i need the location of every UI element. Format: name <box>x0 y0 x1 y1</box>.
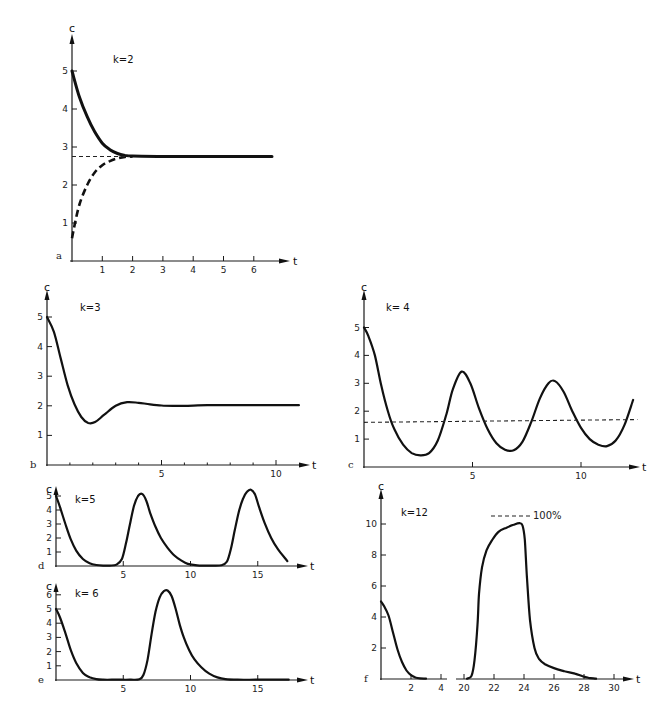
k-label: k=5 <box>75 494 96 505</box>
x-axis-label: t <box>310 560 315 573</box>
x-axis-label: t <box>312 459 317 472</box>
y-tick-label: 4 <box>354 350 360 360</box>
k-label: k=2 <box>113 54 134 65</box>
y-tick-label: 2 <box>371 643 377 653</box>
y-tick-label: 4 <box>371 612 377 622</box>
panel-letter: c <box>348 459 354 470</box>
y-tick-label: 2 <box>354 406 360 416</box>
k-label: k= 4 <box>386 302 410 313</box>
panel-letter: a <box>56 250 62 261</box>
x-tick-label: 10 <box>270 469 282 479</box>
y-tick-label: 10 <box>366 519 378 529</box>
x-tick-label: 28 <box>578 683 590 693</box>
series-equilibrium <box>364 420 637 423</box>
y-tick-label: 3 <box>354 378 360 388</box>
panel-f: 24681024202224262830 c t k=12 f 100% <box>364 480 641 693</box>
y-tick-label: 4 <box>46 505 52 515</box>
y-tick-label: 2 <box>62 180 68 190</box>
x-axis-arrow-icon <box>299 463 310 468</box>
y-axis-label: c <box>46 580 52 593</box>
x-tick-label: 2 <box>130 265 136 275</box>
y-axis-label: c <box>46 483 52 496</box>
k-label: k=3 <box>80 302 101 313</box>
panel-letter: d <box>38 560 45 571</box>
y-tick-label: 4 <box>37 342 43 352</box>
y-tick-label: 1 <box>62 218 68 228</box>
x-axis-arrow-icon <box>279 259 290 264</box>
x-tick-label: 22 <box>488 683 499 693</box>
k-label: k=12 <box>401 507 428 518</box>
y-axis-label: c <box>44 281 50 294</box>
y-tick-label: 6 <box>371 581 377 591</box>
y-tick-label: 3 <box>37 371 43 381</box>
y-tick-label: 1 <box>37 430 43 440</box>
x-tick-label: 1 <box>99 265 105 275</box>
panel-letter: e <box>38 674 44 685</box>
x-tick-label: 10 <box>185 684 197 694</box>
x-tick-label: 5 <box>159 469 165 479</box>
panel-b: 12345510 c t k=3 b <box>30 281 317 479</box>
annotation-100-percent: 100% <box>533 510 562 521</box>
k-label: k= 6 <box>75 588 99 599</box>
y-tick-label: 2 <box>37 401 43 411</box>
y-tick-label: 3 <box>46 632 52 642</box>
x-axis-label: t <box>642 461 647 474</box>
x-tick-label: 26 <box>548 683 560 693</box>
x-tick-label: 10 <box>185 570 197 580</box>
series-c-t- <box>47 317 299 423</box>
y-axis-arrow-icon <box>54 486 59 495</box>
y-tick-label: 2 <box>46 647 52 657</box>
y-tick-label: 3 <box>46 519 52 529</box>
y-tick-label: 4 <box>62 104 68 114</box>
y-tick-label: 5 <box>37 312 43 322</box>
x-tick-label: 15 <box>252 570 263 580</box>
x-tick-label: 30 <box>608 683 620 693</box>
x-axis-arrow-icon <box>623 677 634 682</box>
x-tick-label: 5 <box>221 265 227 275</box>
y-tick-label: 8 <box>371 550 377 560</box>
x-axis-arrow-icon <box>629 465 640 470</box>
y-tick-label: 4 <box>46 618 52 628</box>
series-c-t-early <box>381 602 426 679</box>
y-axis-label: c <box>361 281 367 294</box>
x-axis-arrow-icon <box>297 564 308 569</box>
figure: 12345123456 c t k=2 a 12345510 c t k=3 b… <box>0 0 671 722</box>
y-tick-label: 5 <box>354 323 360 333</box>
panel-c: 12345510 c t k= 4 c <box>348 281 647 481</box>
y-tick-label: 5 <box>62 66 68 76</box>
panel-e: 12345651015 c t k= 6 e <box>38 580 315 694</box>
series-from-c0-5 <box>72 71 272 157</box>
panel-letter: b <box>30 459 36 470</box>
y-tick-label: 1 <box>354 434 360 444</box>
x-tick-label: 2 <box>408 683 414 693</box>
x-tick-label: 4 <box>438 683 444 693</box>
x-axis-label: t <box>310 674 315 687</box>
y-tick-label: 1 <box>46 547 52 557</box>
x-tick-label: 4 <box>190 265 196 275</box>
x-tick-label: 20 <box>458 683 470 693</box>
y-tick-label: 3 <box>62 142 68 152</box>
panel-a: 12345123456 c t k=2 a <box>56 22 298 275</box>
x-axis-label: t <box>293 255 298 268</box>
y-tick-label: 5 <box>46 604 52 614</box>
y-tick-label: 2 <box>46 533 52 543</box>
y-axis-label: c <box>69 22 75 35</box>
series-c-t-late <box>467 523 596 679</box>
series-c-t- <box>56 590 289 680</box>
x-axis-arrow-icon <box>297 678 308 683</box>
x-tick-label: 5 <box>470 471 476 481</box>
x-tick-label: 15 <box>252 684 263 694</box>
x-tick-label: 6 <box>251 265 257 275</box>
panel-d: 1234551015 c t k=5 d <box>38 483 315 580</box>
x-tick-label: 5 <box>120 570 126 580</box>
x-tick-label: 24 <box>518 683 530 693</box>
x-tick-label: 10 <box>575 471 587 481</box>
y-axis-arrow-icon <box>54 583 59 592</box>
x-axis-label: t <box>636 673 641 686</box>
x-tick-label: 3 <box>160 265 166 275</box>
y-axis-arrow-icon <box>70 34 75 44</box>
y-axis-label: c <box>378 480 384 493</box>
series-from-c0-0-6 <box>72 157 133 239</box>
y-tick-label: 1 <box>46 661 52 671</box>
x-tick-label: 5 <box>120 684 126 694</box>
